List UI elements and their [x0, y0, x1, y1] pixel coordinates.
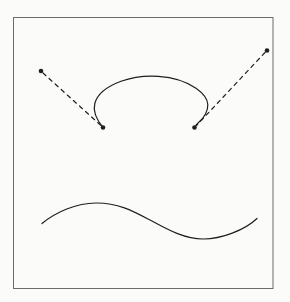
- upper-left-dot: [39, 69, 44, 74]
- figure-page: [0, 0, 290, 302]
- loop-right-dot: [192, 125, 197, 130]
- left-tangent-dashed-line: [43, 73, 101, 126]
- upper-right-dot: [265, 48, 270, 53]
- right-tangent-dashed-line: [197, 53, 266, 126]
- figure-frame: [14, 18, 274, 289]
- loop-curve: [94, 76, 208, 127]
- loop-left-dot: [101, 125, 106, 130]
- wave-curve: [42, 203, 257, 239]
- figure-canvas: [0, 0, 290, 302]
